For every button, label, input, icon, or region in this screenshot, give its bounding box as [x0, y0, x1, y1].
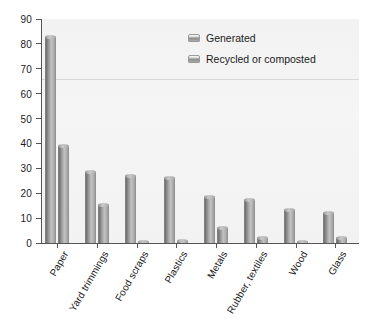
y-axis-tick: [36, 193, 41, 194]
y-axis-tick: [36, 68, 41, 69]
chart-legend: GeneratedRecycled or composted: [188, 30, 316, 72]
y-axis-tick: [36, 19, 41, 20]
bar-generated-glass: [323, 212, 334, 243]
y-axis-tick: [36, 218, 41, 219]
x-axis-tick: [176, 244, 177, 248]
y-axis-tick-label: 70: [20, 63, 32, 74]
x-axis-category-label: Wood: [286, 249, 309, 277]
y-axis-tick: [36, 243, 41, 244]
legend-item-label: Generated: [206, 32, 256, 44]
bar-generated-metals: [204, 196, 215, 243]
x-axis-category-label: Glass: [326, 249, 349, 277]
x-axis-line: [41, 243, 359, 244]
y-axis-tick: [36, 43, 41, 44]
y-axis-tick: [36, 118, 41, 119]
bar-generated-paper: [45, 36, 56, 243]
x-axis-tick: [296, 244, 297, 248]
legend-item-label: Recycled or composted: [206, 53, 316, 65]
bar-generated-wood: [284, 209, 295, 243]
x-axis-category-label: Food scraps: [112, 249, 150, 303]
x-axis-tick: [137, 244, 138, 248]
y-axis-tick-label: 10: [20, 213, 32, 224]
legend-swatch-recycled-icon: [188, 55, 200, 63]
y-axis-tick-label: 20: [20, 188, 32, 199]
y-axis-tick: [36, 93, 41, 94]
x-axis-tick: [57, 244, 58, 248]
x-axis-tick: [335, 244, 336, 248]
y-axis-tick-label: 30: [20, 163, 32, 174]
y-axis-tick-label: 80: [20, 38, 32, 49]
legend-swatch-generated-icon: [188, 34, 200, 42]
y-axis-line: [41, 19, 42, 244]
faint-horizontal-rule: [41, 79, 359, 80]
y-axis-tick-label: 90: [20, 14, 32, 25]
x-axis-category-label: Yard trimmings: [67, 249, 110, 313]
legend-item: Recycled or composted: [188, 51, 316, 67]
bar-generated-yard-trimmings: [85, 171, 96, 243]
x-axis-tick: [216, 244, 217, 248]
x-axis-category-label: Rubber, textiles: [224, 249, 269, 316]
bar-generated-plastics: [164, 177, 175, 243]
y-axis-tick: [36, 143, 41, 144]
y-axis-tick-label: 60: [20, 88, 32, 99]
x-axis-category-label: Paper: [47, 249, 70, 278]
bar-generated-rubber-textiles: [244, 199, 255, 243]
bar-chart: 0102030405060708090 PaperYard trimmingsF…: [0, 0, 365, 331]
bar-recycled-or-composted-yard-trimmings: [98, 204, 109, 243]
bar-recycled-or-composted-metals: [217, 227, 228, 243]
bar-recycled-or-composted-paper: [58, 145, 69, 243]
y-axis-tick-label: 40: [20, 138, 32, 149]
bar-generated-food-scraps: [125, 175, 136, 243]
x-axis-tick: [97, 244, 98, 248]
y-axis-tick: [36, 168, 41, 169]
x-axis-category-label: Plastics: [163, 249, 190, 285]
y-axis-tick-label: 0: [26, 238, 32, 249]
legend-item: Generated: [188, 30, 316, 46]
y-axis-tick-label: 50: [20, 113, 32, 124]
x-axis-tick: [256, 244, 257, 248]
x-axis-category-label: Metals: [205, 249, 230, 281]
